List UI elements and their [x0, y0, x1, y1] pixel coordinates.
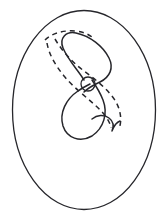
figure-eight-upper-loop [62, 33, 111, 92]
dashed-arc-hook-tail [92, 115, 120, 131]
figure-container: Figure-eight curve inside an oval region… [0, 0, 166, 214]
outer-oval-boundary [13, 11, 156, 210]
line-diagram-svg [0, 0, 166, 214]
